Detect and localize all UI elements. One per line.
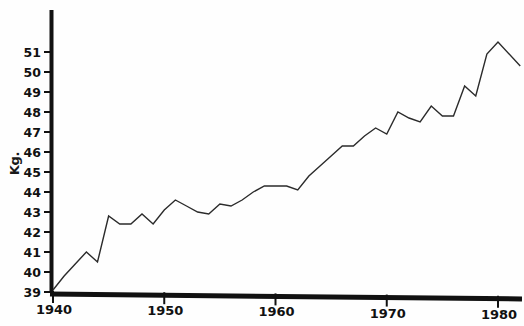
- y-tick-label: 39: [24, 285, 41, 300]
- x-axis-line: [50, 294, 522, 299]
- data-series-line: [53, 42, 520, 290]
- y-tick-label: 48: [24, 105, 41, 120]
- y-tick-label: 40: [24, 265, 42, 280]
- x-tick-label: 1980: [481, 307, 517, 322]
- x-tick-label: 1940: [36, 302, 72, 317]
- line-chart-plot: 39404142434445464748495051 1940195019601…: [0, 0, 524, 326]
- y-tick-label: 45: [24, 165, 41, 180]
- y-tick-label: 47: [24, 125, 41, 140]
- x-tick-label: 1950: [147, 303, 183, 318]
- y-tick-label: 49: [24, 85, 41, 100]
- y-tick-label: 50: [24, 65, 42, 80]
- y-tick-label: 51: [24, 45, 41, 60]
- y-axis-ticks: 39404142434445464748495051: [24, 45, 53, 300]
- y-tick-label: 43: [24, 205, 41, 220]
- y-tick-label: 41: [24, 245, 41, 260]
- y-tick-label: 42: [24, 225, 41, 240]
- y-tick-label: 44: [24, 185, 42, 200]
- x-tick-label: 1970: [370, 306, 406, 321]
- x-tick-label: 1960: [258, 304, 294, 319]
- chart-container: Kg. 39404142434445464748495051 194019501…: [0, 0, 524, 326]
- y-tick-label: 46: [24, 145, 42, 160]
